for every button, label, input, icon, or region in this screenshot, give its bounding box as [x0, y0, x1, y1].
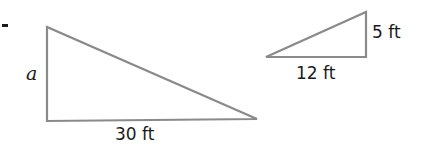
bullet-mark: [2, 24, 8, 27]
large-vertical-label: a: [26, 62, 37, 84]
large-base-label: 30 ft: [115, 124, 154, 144]
small-base-label: 12 ft: [296, 63, 335, 83]
diagram-canvas: [0, 0, 421, 149]
small-vertical-label: 5 ft: [372, 22, 401, 42]
small-triangle: [266, 12, 366, 57]
large-triangle: [47, 27, 257, 121]
